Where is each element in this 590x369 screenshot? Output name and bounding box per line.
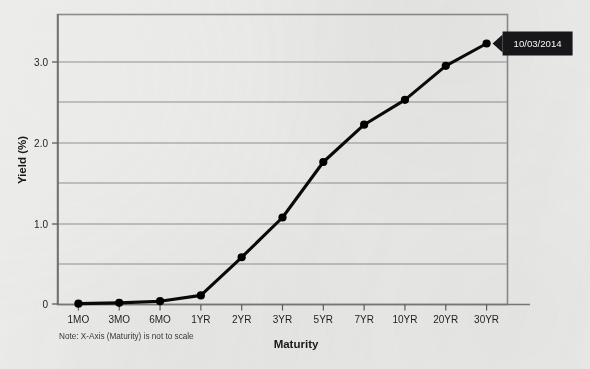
data-point-3MO <box>115 299 123 307</box>
data-point-5YR <box>319 158 327 166</box>
data-point-7YR <box>360 121 368 129</box>
x-tick-label-3YR: 3YR <box>273 314 292 325</box>
x-tick-label-7YR: 7YR <box>354 314 373 325</box>
callout-label: 10/03/2014 <box>514 38 563 49</box>
y-tick-label-3: 3.0 <box>34 57 48 68</box>
data-point-10YR <box>401 96 409 104</box>
x-tick-label-6MO: 6MO <box>149 314 171 325</box>
y-tick-label-1: 1.0 <box>34 219 48 230</box>
y-tick-label-0: 0 <box>42 299 48 310</box>
data-point-1YR <box>197 291 205 299</box>
x-tick-label-1MO: 1MO <box>68 314 90 325</box>
x-tick-marks <box>78 305 486 311</box>
plot-area <box>58 15 508 305</box>
x-tick-label-20YR: 20YR <box>433 314 458 325</box>
data-point-30YR <box>482 39 490 47</box>
x-tick-label-30YR: 30YR <box>474 314 499 325</box>
chart-footnote: Note: X-Axis (Maturity) is not to scale <box>59 332 194 341</box>
data-point-20YR <box>442 62 450 70</box>
x-tick-label-1YR: 1YR <box>191 314 210 325</box>
x-axis-title: Maturity <box>274 338 319 350</box>
data-point-1MO <box>74 300 82 308</box>
data-point-3YR <box>278 213 286 221</box>
data-point-2YR <box>238 253 246 261</box>
y-tick-label-2: 2.0 <box>34 138 48 149</box>
yield-curve-chart: 3.0 2.0 1.0 0 Yield (%) 1MO3MO6MO1YR2YR3… <box>0 0 590 369</box>
x-tick-label-3MO: 3MO <box>108 314 130 325</box>
x-tick-label-5YR: 5YR <box>314 314 333 325</box>
x-tick-label-10YR: 10YR <box>392 314 417 325</box>
x-tick-labels: 1MO3MO6MO1YR2YR3YR5YR7YR10YR20YR30YR <box>68 314 500 325</box>
x-tick-label-2YR: 2YR <box>232 314 251 325</box>
chart-canvas: 3.0 2.0 1.0 0 Yield (%) 1MO3MO6MO1YR2YR3… <box>0 0 590 369</box>
date-callout: 10/03/2014 <box>493 32 573 56</box>
data-point-6MO <box>156 297 164 305</box>
y-axis-title: Yield (%) <box>16 136 28 184</box>
